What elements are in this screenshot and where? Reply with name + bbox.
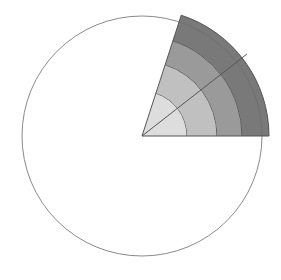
shaded-wedge — [142, 15, 269, 136]
watercolor-illustration — [0, 0, 281, 280]
